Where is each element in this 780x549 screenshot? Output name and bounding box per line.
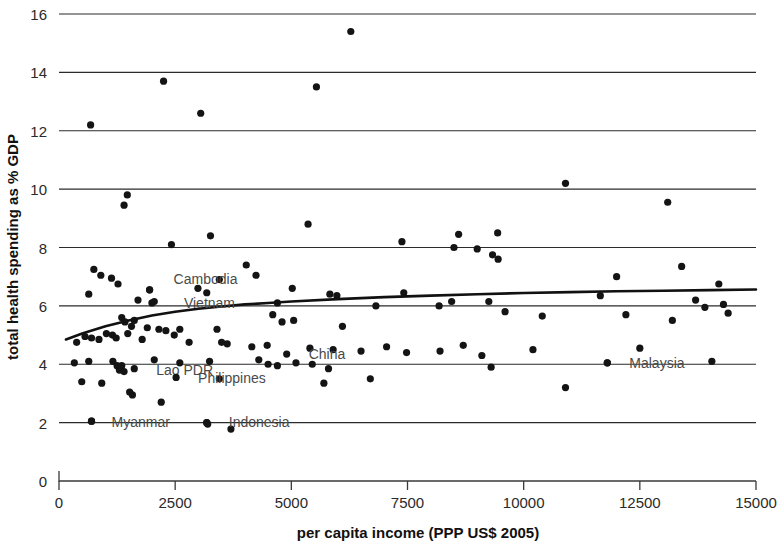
data-point <box>562 384 569 391</box>
data-point <box>85 358 92 365</box>
point-label-malaysia: Malaysia <box>629 355 684 371</box>
data-point <box>448 298 455 305</box>
point-label-indonesia: Indonesia <box>229 414 290 430</box>
data-point <box>460 342 467 349</box>
data-point <box>313 83 320 90</box>
data-point <box>304 221 311 228</box>
data-point <box>325 365 332 372</box>
data-point <box>129 391 136 398</box>
data-point <box>71 359 78 366</box>
data-point <box>539 312 546 319</box>
scatter-chart-figure: 0246810121416 02500500075001000012500150… <box>0 0 780 549</box>
x-tick-label-0: 0 <box>55 494 63 511</box>
data-point <box>678 263 685 270</box>
data-point <box>339 323 346 330</box>
data-point <box>474 245 481 252</box>
data-point <box>120 368 127 375</box>
data-point <box>171 331 178 338</box>
data-point <box>290 317 297 324</box>
x-tick-label-10000: 10000 <box>503 494 545 511</box>
data-point <box>114 280 121 287</box>
data-point <box>669 317 676 324</box>
y-tick-label-8: 8 <box>39 240 47 257</box>
x-axis-ticks <box>59 481 756 490</box>
x-axis-title: per capita income (PPP US$ 2005) <box>297 524 539 541</box>
axis-frame <box>59 471 756 481</box>
data-point <box>367 375 374 382</box>
data-point <box>213 326 220 333</box>
data-point <box>144 324 151 331</box>
data-point <box>478 352 485 359</box>
data-point <box>265 361 272 368</box>
data-point <box>692 296 699 303</box>
data-point <box>715 280 722 287</box>
data-point <box>326 291 333 298</box>
data-point <box>160 78 167 85</box>
data-point <box>243 261 250 268</box>
trend-line <box>66 290 756 340</box>
x-tick-label-12500: 12500 <box>619 494 661 511</box>
axis-lines <box>59 471 756 481</box>
data-point <box>292 359 299 366</box>
data-point <box>124 330 131 337</box>
data-point <box>207 232 214 239</box>
data-point <box>725 310 732 317</box>
y-axis-tick-labels: 0246810121416 <box>30 6 47 490</box>
data-point <box>622 311 629 318</box>
y-tick-label-4: 4 <box>39 356 47 373</box>
data-point <box>435 302 442 309</box>
annotated-data-point <box>283 350 290 357</box>
data-point <box>455 231 462 238</box>
data-point <box>664 199 671 206</box>
data-point <box>108 275 115 282</box>
annotated-data-point <box>604 359 611 366</box>
data-point <box>255 356 262 363</box>
data-point <box>248 343 255 350</box>
y-tick-label-2: 2 <box>39 415 47 432</box>
data-point <box>197 110 204 117</box>
data-point <box>383 343 390 350</box>
data-point <box>613 273 620 280</box>
data-point <box>78 378 85 385</box>
data-point <box>488 364 495 371</box>
data-point <box>168 241 175 248</box>
data-point <box>103 330 110 337</box>
data-point <box>357 348 364 355</box>
data-point <box>708 358 715 365</box>
point-label-myanmar: Myanmar <box>112 414 171 430</box>
data-point <box>186 339 193 346</box>
point-label-cambodia: Cambodia <box>174 271 238 287</box>
annotated-data-point <box>203 419 210 426</box>
data-point <box>120 202 127 209</box>
data-point <box>98 380 105 387</box>
y-tick-label-6: 6 <box>39 298 47 315</box>
data-point <box>224 340 231 347</box>
data-point <box>87 121 94 128</box>
data-point <box>97 272 104 279</box>
data-point <box>252 272 259 279</box>
data-point <box>501 308 508 315</box>
data-point <box>113 334 120 341</box>
x-tick-label-2500: 2500 <box>158 494 191 511</box>
data-point <box>85 291 92 298</box>
data-point <box>73 339 80 346</box>
x-tick-label-7500: 7500 <box>391 494 424 511</box>
data-point <box>269 311 276 318</box>
data-point <box>597 292 604 299</box>
data-point <box>701 304 708 311</box>
y-tick-label-10: 10 <box>30 181 47 198</box>
data-point <box>494 229 501 236</box>
data-point <box>398 238 405 245</box>
data-point <box>372 302 379 309</box>
data-point <box>158 399 165 406</box>
data-point <box>320 380 327 387</box>
point-label-vietnam: Vietnam <box>184 295 235 311</box>
y-tick-label-0: 0 <box>39 473 47 490</box>
data-point <box>436 348 443 355</box>
annotated-data-point <box>131 365 138 372</box>
data-point <box>529 346 536 353</box>
data-point <box>139 336 146 343</box>
data-point <box>289 285 296 292</box>
data-point <box>495 256 502 263</box>
data-point <box>124 191 131 198</box>
